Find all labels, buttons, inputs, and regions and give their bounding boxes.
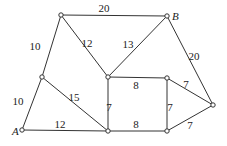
node-label-B: B <box>172 10 179 22</box>
edge-weight-label: 10 <box>30 40 42 52</box>
node-n6 <box>106 129 110 133</box>
node-B <box>165 14 169 18</box>
weighted-graph-diagram: 2010101213201512877787 BA <box>0 0 227 146</box>
node-n2 <box>40 75 44 79</box>
node-n7 <box>165 129 169 133</box>
node-n3 <box>106 75 110 79</box>
node-A <box>20 128 24 132</box>
edge-B-n3 <box>108 16 167 77</box>
edge-weight-label: 7 <box>187 119 193 131</box>
edge-n1-B <box>61 15 167 16</box>
edge-weight-label: 7 <box>167 101 173 113</box>
edge-n3-n4 <box>108 77 167 78</box>
edge-weight-label: 8 <box>133 79 139 91</box>
edge-n2-n6 <box>42 77 108 131</box>
edge-A-n6 <box>22 130 108 131</box>
node-label-A: A <box>11 125 19 137</box>
edge-weight-label: 10 <box>13 95 25 107</box>
edge-weight-label: 15 <box>69 91 81 103</box>
edge-weight-label: 7 <box>106 101 112 113</box>
node-n4 <box>165 76 169 80</box>
edge-n1-n2 <box>42 15 61 77</box>
edge-weight-label: 20 <box>189 50 201 62</box>
node-n1 <box>59 13 63 17</box>
edge-weight-label: 20 <box>99 2 111 14</box>
edge-weight-label: 12 <box>82 37 93 49</box>
edge-weight-label: 7 <box>183 78 189 90</box>
graph-nodes <box>20 13 215 133</box>
edge-n2-A <box>22 77 42 130</box>
edge-weight-label: 12 <box>55 118 66 130</box>
graph-edges <box>22 15 213 131</box>
edge-weight-label: 8 <box>133 118 139 130</box>
node-n5 <box>211 103 215 107</box>
edge-weight-label: 13 <box>123 38 135 50</box>
